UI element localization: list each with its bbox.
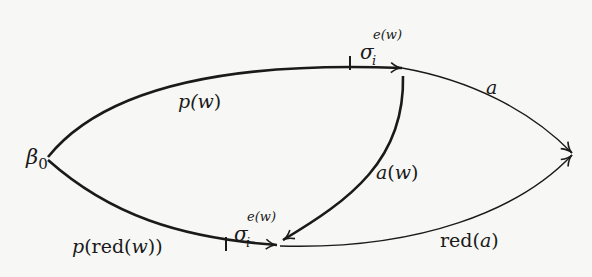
beta-subscript: 0 <box>38 155 48 173</box>
sigma-sub: i <box>246 236 250 249</box>
red-a-prefix: red( <box>440 229 480 251</box>
label-p-w: p(w) <box>178 92 221 111</box>
edge-p-w <box>48 67 402 157</box>
a-w-var: a <box>376 161 387 183</box>
p-red-w-mid: (red( <box>84 235 131 257</box>
p-w-close: ) <box>214 90 221 112</box>
label-sigma-bottom: σ i e(w) <box>234 220 284 250</box>
p-red-w-close: )) <box>148 235 163 257</box>
sigma-sub: i <box>372 54 376 67</box>
red-a-var: a <box>480 229 491 251</box>
edge-a-w <box>283 76 403 240</box>
p-w-prefix: p( <box>178 90 198 112</box>
beta-symbol: β <box>26 145 38 169</box>
sigma-sup: e(w) <box>373 28 402 41</box>
p-w-var: w <box>198 90 214 112</box>
sigma-sup: e(w) <box>247 210 276 223</box>
p-red-w-p: p <box>72 235 84 257</box>
a-w-open: ( <box>387 161 394 183</box>
node-beta0-label: β0 <box>26 147 48 168</box>
label-a-w: a(w) <box>376 163 418 182</box>
a-w-arg: w <box>395 161 411 183</box>
label-sigma-top: σ i e(w) <box>360 38 410 68</box>
edge-red-a <box>280 155 572 246</box>
a-w-close: ) <box>411 161 418 183</box>
label-a: a <box>486 78 497 97</box>
label-p-red-w: p(red(w)) <box>72 237 163 256</box>
a-label-text: a <box>486 76 497 98</box>
label-red-a: red(a) <box>440 231 499 250</box>
red-a-close: ) <box>491 229 498 251</box>
diagram-canvas: β0 p(w) σ i e(w) a a(w) σ i e(w) p(red(w… <box>0 0 592 277</box>
p-red-w-var: w <box>132 235 148 257</box>
